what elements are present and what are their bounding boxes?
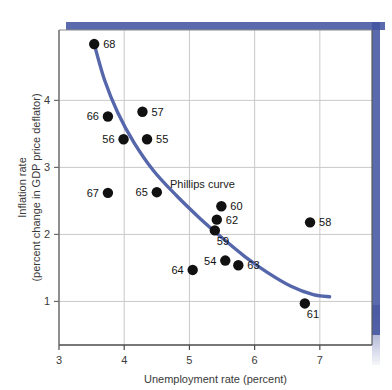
- data-point-label-57: 57: [151, 106, 163, 118]
- data-point-marker-59: [210, 225, 220, 235]
- data-point-marker-66: [103, 111, 113, 121]
- data-point-marker-56: [118, 134, 128, 144]
- data-point-label-58: 58: [319, 216, 331, 228]
- data-point-label-60: 60: [230, 200, 242, 212]
- data-point-marker-58: [305, 217, 315, 227]
- chart-svg: 123434567Unemployment rate (percent)Infl…: [0, 0, 392, 390]
- data-point-label-56: 56: [102, 133, 114, 145]
- data-point-label-64: 64: [171, 264, 183, 276]
- data-point-label-65: 65: [136, 186, 148, 198]
- data-point-marker-55: [142, 134, 152, 144]
- data-point-label-55: 55: [156, 133, 168, 145]
- x-axis-title: Unemployment rate (percent): [144, 373, 287, 385]
- x-tick-label-4: 4: [121, 354, 127, 366]
- data-point-marker-62: [212, 214, 222, 224]
- y-tick-label-3: 3: [44, 161, 50, 173]
- data-point-marker-65: [152, 187, 162, 197]
- x-tick-label-7: 7: [317, 354, 323, 366]
- data-point-60[interactable]: 60: [216, 200, 242, 212]
- data-point-label-59: 59: [217, 235, 229, 247]
- x-tick-label-5: 5: [186, 354, 192, 366]
- data-point-62[interactable]: 62: [212, 214, 238, 226]
- data-point-68[interactable]: 68: [89, 38, 115, 50]
- data-point-label-61: 61: [307, 308, 319, 320]
- data-point-label-68: 68: [103, 38, 115, 50]
- data-point-marker-60: [216, 201, 226, 211]
- data-point-marker-68: [89, 39, 99, 49]
- x-tick-label-6: 6: [252, 354, 258, 366]
- data-point-marker-54: [220, 255, 230, 265]
- y-axis-title-line1: Inflation rate: [16, 157, 28, 218]
- data-point-marker-61: [300, 298, 310, 308]
- y-axis-title-line2: (percent change in GDP price deflator): [30, 93, 42, 281]
- phillips-curve-figure: 123434567Unemployment rate (percent)Infl…: [0, 0, 392, 390]
- data-point-label-62: 62: [226, 214, 238, 226]
- x-axis: 34567: [56, 345, 323, 366]
- data-point-marker-63: [233, 260, 243, 270]
- frame-shadow-right-fade: [372, 305, 380, 365]
- x-tick-label-3: 3: [56, 354, 62, 366]
- data-point-58[interactable]: 58: [305, 216, 331, 228]
- frame-shadow-right: [372, 22, 380, 335]
- phillips-curve-annotation: Phillips curve: [170, 178, 235, 190]
- y-axis: 1234: [44, 94, 59, 307]
- data-point-label-54: 54: [204, 255, 216, 267]
- data-point-57[interactable]: 57: [137, 106, 163, 118]
- data-point-label-63: 63: [247, 259, 259, 271]
- y-tick-label-4: 4: [44, 94, 50, 106]
- data-point-63[interactable]: 63: [233, 259, 259, 271]
- data-point-55[interactable]: 55: [142, 133, 168, 145]
- frame-shadow-top: [66, 22, 385, 30]
- data-point-label-67: 67: [87, 187, 99, 199]
- y-tick-label-2: 2: [44, 228, 50, 240]
- data-point-marker-57: [137, 107, 147, 117]
- y-tick-label-1: 1: [44, 295, 50, 307]
- data-point-marker-64: [187, 265, 197, 275]
- data-point-marker-67: [103, 188, 113, 198]
- data-point-label-66: 66: [87, 110, 99, 122]
